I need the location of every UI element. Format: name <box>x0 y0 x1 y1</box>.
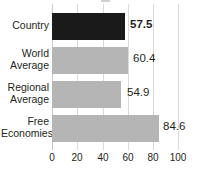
bar-free-economies <box>52 115 159 142</box>
x-tick-20: 20 <box>71 152 82 164</box>
x-tick-100: 100 <box>170 152 187 164</box>
bar-world-average <box>52 47 128 74</box>
bar-row-regional-average: Regional Average 54.9 <box>0 80 197 114</box>
value-label-country: 57.5 <box>130 18 152 31</box>
bar-row-country: Country 57.5 <box>0 12 197 46</box>
category-label-world-average: World Average <box>1 48 49 71</box>
value-label-world-average: 60.4 <box>133 52 155 65</box>
bar-country <box>52 13 125 40</box>
x-tick-80: 80 <box>147 152 158 164</box>
bar-regional-average <box>52 81 121 108</box>
bar-row-free-economies: Free Economies 84.6 <box>0 114 197 148</box>
x-tick-0: 0 <box>49 152 55 164</box>
horizontal-bar-chart: Country 57.5 World Average 60.4 Regional… <box>0 0 197 178</box>
value-label-free-economies: 84.6 <box>163 120 185 133</box>
x-axis: 0 20 40 60 80 100 <box>0 150 197 166</box>
bar-row-world-average: World Average 60.4 <box>0 46 197 80</box>
x-tick-40: 40 <box>97 152 108 164</box>
value-label-regional-average: 54.9 <box>127 86 149 99</box>
top-crop-mark <box>101 0 110 2</box>
bar-rows: Country 57.5 World Average 60.4 Regional… <box>0 12 197 148</box>
category-label-regional-average: Regional Average <box>1 82 49 105</box>
category-label-free-economies: Free Economies <box>1 116 49 139</box>
category-label-country: Country <box>1 20 49 32</box>
x-tick-60: 60 <box>122 152 133 164</box>
